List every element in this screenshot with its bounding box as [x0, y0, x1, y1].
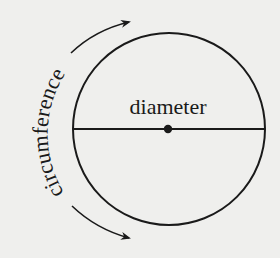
center-point: [164, 125, 172, 133]
circle-diagram-svg: diameter circumference: [0, 0, 280, 258]
circumference-arrow-up: [71, 22, 129, 53]
circumference-label-text: circumference: [27, 63, 69, 202]
diameter-label: diameter: [130, 94, 208, 119]
circumference-label: circumference: [27, 63, 69, 202]
circle-diagram: diameter circumference: [0, 0, 280, 258]
